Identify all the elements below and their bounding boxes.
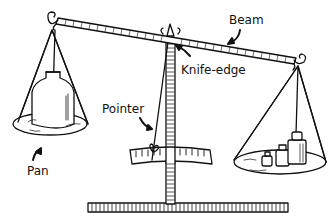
weights xyxy=(262,132,306,166)
column xyxy=(166,38,175,204)
label-knife-edge: Knife-edge xyxy=(181,64,246,76)
pointer xyxy=(150,42,168,160)
balance-drawing xyxy=(0,0,335,224)
label-beam: Beam xyxy=(229,14,264,26)
label-pointer: Pointer xyxy=(102,103,144,115)
beam xyxy=(48,12,306,70)
left-pan xyxy=(13,30,88,135)
right-pan xyxy=(234,66,326,174)
label-pan: Pan xyxy=(27,165,49,177)
balance-diagram: Beam Knife-edge Pointer Pan xyxy=(0,0,335,224)
pointer-scale xyxy=(130,147,212,164)
base xyxy=(88,203,288,212)
